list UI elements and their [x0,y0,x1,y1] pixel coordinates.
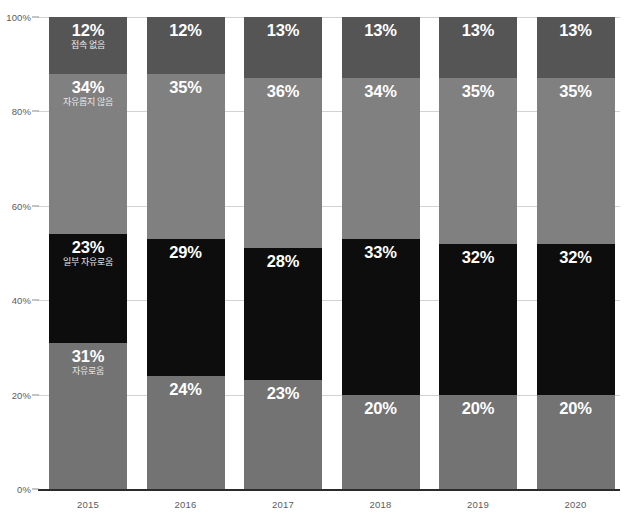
bar-2020[interactable]: 13%35%32%20% [537,17,615,489]
y-tick-mark [32,489,39,490]
segment-value-label: 23% [244,385,322,402]
bar-segment[interactable]: 23%일부 자유로움 [49,234,127,343]
axis-baseline [38,489,620,491]
bar-segment[interactable]: 20% [439,395,517,489]
x-tick-label: 2018 [342,499,420,510]
y-tick-label: 80% [0,106,31,117]
segment-value-label: 33% [342,244,420,261]
segment-value-label: 31% [49,348,127,365]
segment-category-label: 접속 없음 [49,39,127,53]
bar-segment[interactable]: 28% [244,248,322,380]
segment-value-label: 28% [244,253,322,270]
segment-value-label: 13% [537,22,615,39]
segment-category-label: 일부 자유로움 [49,256,127,270]
bar-segment[interactable]: 13% [244,17,322,78]
segment-value-label: 34% [49,79,127,96]
bar-segment[interactable]: 13% [537,17,615,78]
bar-segment[interactable]: 29% [147,239,225,376]
segment-value-label: 35% [537,83,615,100]
x-tick-label: 2015 [49,499,127,510]
bar-segment[interactable]: 36% [244,78,322,248]
segment-value-label: 13% [244,22,322,39]
bar-2015[interactable]: 12%접속 없음34%자유롭지 않음23%일부 자유로움31%자유로움 [49,17,127,489]
segment-category-label: 자유롭지 않음 [49,96,127,110]
bar-2016[interactable]: 12%35%29%24% [147,17,225,489]
stacked-bar-chart: 12%접속 없음34%자유롭지 않음23%일부 자유로움31%자유로움12%35… [0,0,627,531]
bar-segment[interactable]: 35% [537,78,615,243]
bar-segment[interactable]: 35% [147,74,225,239]
bar-segment[interactable]: 20% [342,395,420,489]
segment-value-label: 24% [147,381,225,398]
segment-value-label: 13% [342,22,420,39]
y-tick-mark [32,394,39,395]
bar-group: 12%접속 없음34%자유롭지 않음23%일부 자유로움31%자유로움12%35… [38,17,620,489]
bar-segment[interactable]: 13% [342,17,420,78]
segment-value-label: 12% [147,22,225,39]
y-tick-mark [32,205,39,206]
bar-2018[interactable]: 13%34%33%20% [342,17,420,489]
segment-value-label: 13% [439,22,517,39]
bar-segment[interactable]: 31%자유로움 [49,343,127,489]
x-tick-label: 2020 [537,499,615,510]
y-tick-label: 40% [0,295,31,306]
bar-segment[interactable]: 34%자유롭지 않음 [49,74,127,234]
segment-value-label: 34% [342,83,420,100]
segment-value-label: 23% [49,239,127,256]
y-tick-label: 60% [0,200,31,211]
x-tick-label: 2017 [244,499,322,510]
segment-value-label: 35% [439,83,517,100]
x-tick-label: 2016 [147,499,225,510]
segment-value-label: 29% [147,244,225,261]
y-tick-mark [32,17,39,18]
bar-segment[interactable]: 12% [147,17,225,74]
bar-segment[interactable]: 24% [147,376,225,489]
segment-value-label: 36% [244,83,322,100]
y-tick-mark [32,300,39,301]
segment-value-label: 32% [537,249,615,266]
segment-value-label: 20% [439,400,517,417]
segment-value-label: 35% [147,79,225,96]
bar-segment[interactable]: 13% [439,17,517,78]
segment-value-label: 20% [537,400,615,417]
segment-value-label: 20% [342,400,420,417]
segment-category-label: 자유로움 [49,365,127,379]
x-tick-label: 2019 [439,499,517,510]
segment-value-label: 32% [439,249,517,266]
bar-segment[interactable]: 20% [537,395,615,489]
y-tick-label: 100% [0,12,31,23]
bar-segment[interactable]: 12%접속 없음 [49,17,127,74]
bar-2017[interactable]: 13%36%28%23% [244,17,322,489]
bar-segment[interactable]: 23% [244,380,322,489]
segment-value-label: 12% [49,22,127,39]
plot-area: 12%접속 없음34%자유롭지 않음23%일부 자유로움31%자유로움12%35… [38,17,620,489]
y-tick-label: 0% [0,484,31,495]
bar-segment[interactable]: 35% [439,78,517,243]
bar-segment[interactable]: 33% [342,239,420,395]
y-tick-label: 20% [0,389,31,400]
bar-2019[interactable]: 13%35%32%20% [439,17,517,489]
y-tick-mark [32,111,39,112]
bar-segment[interactable]: 34% [342,78,420,238]
bar-segment[interactable]: 32% [537,244,615,395]
bar-segment[interactable]: 32% [439,244,517,395]
